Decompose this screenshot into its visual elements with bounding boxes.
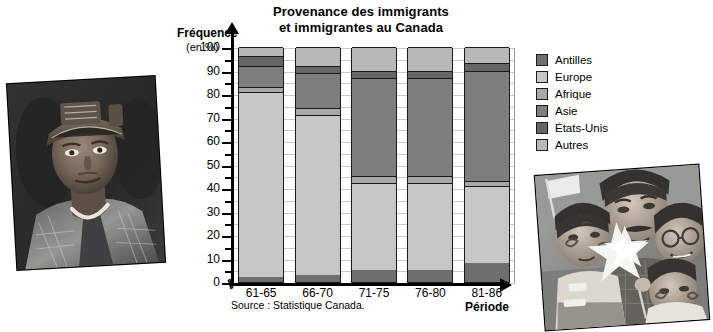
bar-segment-antilles[interactable] — [352, 270, 396, 282]
legend-label: Asie — [555, 105, 577, 117]
bar-segment-antilles[interactable] — [296, 275, 340, 282]
y-tick-label: 50 — [194, 158, 220, 172]
y-tick-minor — [225, 177, 231, 179]
bar-61-65[interactable] — [238, 48, 284, 283]
y-tick-minor — [225, 107, 231, 109]
bar-segment-asie[interactable] — [465, 71, 509, 181]
legend-label: Europe — [555, 71, 592, 83]
legend-item--tats-unis[interactable]: États-Unis — [536, 120, 656, 136]
bar-segment-afrique[interactable] — [239, 87, 283, 92]
x-tick-label-71-75: 71-75 — [346, 286, 402, 300]
bar-66-70[interactable] — [295, 48, 341, 283]
y-tick-label: 80 — [194, 87, 220, 101]
y-tick-major — [222, 166, 231, 168]
y-tick-major — [222, 236, 231, 238]
legend-label: Antilles — [555, 54, 592, 66]
legend-item-antilles[interactable]: Antilles — [536, 52, 656, 68]
chart-title: Provenance des immigrants et immigrantes… — [246, 4, 476, 36]
y-tick-minor — [225, 201, 231, 203]
y-tick-minor — [225, 224, 231, 226]
bar-segment-asie[interactable] — [352, 78, 396, 177]
y-tick-label: 90 — [194, 64, 220, 78]
legend-label: Autres — [555, 139, 588, 151]
bar-segment-autres[interactable] — [408, 47, 452, 71]
bar-segment-europe[interactable] — [408, 183, 452, 270]
bar-81-86[interactable] — [464, 48, 510, 283]
x-tick-label-76-80: 76-80 — [402, 286, 458, 300]
y-tick-minor — [225, 271, 231, 273]
bar-segment--tats-unis[interactable] — [239, 56, 283, 65]
bar-segment-autres[interactable] — [296, 47, 340, 66]
bar-segment-antilles[interactable] — [408, 270, 452, 282]
bar-71-75[interactable] — [351, 48, 397, 283]
y-tick-minor — [225, 154, 231, 156]
figure-root: Provenance des immigrants et immigrantes… — [0, 0, 713, 332]
y-tick-label: 0 — [194, 275, 220, 289]
y-tick-major — [222, 283, 231, 285]
bar-segment-asie[interactable] — [408, 78, 452, 177]
bar-segment--tats-unis[interactable] — [352, 71, 396, 78]
bar-segment--tats-unis[interactable] — [296, 66, 340, 73]
bar-segment-afrique[interactable] — [296, 108, 340, 115]
y-axis-line — [231, 32, 234, 284]
bar-segment-europe[interactable] — [239, 92, 283, 278]
bar-segment-asie[interactable] — [296, 73, 340, 108]
y-tick-minor — [225, 83, 231, 85]
chart-title-line-1: Provenance des immigrants — [246, 4, 476, 20]
photo-left-image — [7, 76, 165, 270]
legend-item-europe[interactable]: Europe — [536, 69, 656, 85]
y-tick-label: 70 — [194, 111, 220, 125]
legend-label: États-Unis — [555, 122, 608, 134]
y-tick-major — [222, 48, 231, 50]
y-tick-major — [222, 119, 231, 121]
x-tick-label-81-86: 81-86 — [459, 286, 515, 300]
photo-right — [535, 164, 709, 330]
bar-segment-antilles[interactable] — [239, 277, 283, 282]
bar-segment-europe[interactable] — [465, 186, 509, 264]
bar-76-80[interactable] — [407, 48, 453, 283]
bar-segment-afrique[interactable] — [408, 176, 452, 183]
bar-segment-europe[interactable] — [296, 115, 340, 275]
y-tick-label: 40 — [194, 181, 220, 195]
bar-segment-afrique[interactable] — [465, 181, 509, 186]
y-axis-arrow-icon — [225, 22, 239, 34]
bar-segment-autres[interactable] — [352, 47, 396, 71]
bar-segment--tats-unis[interactable] — [408, 71, 452, 78]
source-note: Source : Statistique Canada. — [231, 299, 365, 311]
y-tick-label: 20 — [194, 228, 220, 242]
legend-swatch-icon — [536, 71, 548, 83]
legend-swatch-icon — [536, 54, 548, 66]
y-tick-major — [222, 260, 231, 262]
y-tick-label: 100 — [194, 40, 220, 54]
legend-item-asie[interactable]: Asie — [536, 103, 656, 119]
legend-item-autres[interactable]: Autres — [536, 137, 656, 153]
bar-segment-autres[interactable] — [465, 47, 509, 63]
bar-segment-autres[interactable] — [239, 47, 283, 56]
legend: AntillesEuropeAfriqueAsieÉtats-UnisAutre… — [536, 52, 656, 154]
photo-right-image — [535, 164, 709, 330]
y-tick-label: 60 — [194, 134, 220, 148]
y-tick-major — [222, 142, 231, 144]
y-tick-major — [222, 95, 231, 97]
y-tick-major — [222, 189, 231, 191]
legend-item-afrique[interactable]: Afrique — [536, 86, 656, 102]
y-tick-minor — [225, 130, 231, 132]
bar-segment-europe[interactable] — [352, 183, 396, 270]
legend-swatch-icon — [536, 122, 548, 134]
x-axis-label: Période — [465, 300, 509, 314]
y-tick-major — [222, 72, 231, 74]
bar-segment-asie[interactable] — [239, 66, 283, 87]
photo-left — [7, 76, 165, 270]
bar-segment--tats-unis[interactable] — [465, 63, 509, 70]
y-tick-minor — [225, 248, 231, 250]
y-tick-minor — [225, 60, 231, 62]
y-tick-label: 10 — [194, 252, 220, 266]
bar-segment-afrique[interactable] — [352, 176, 396, 183]
x-tick-label-66-70: 66-70 — [290, 286, 346, 300]
chart-title-line-2: et immigrantes au Canada — [246, 20, 476, 36]
legend-swatch-icon — [536, 88, 548, 100]
plot-right-frame — [514, 48, 515, 283]
x-tick-label-61-65: 61-65 — [233, 286, 289, 300]
legend-swatch-icon — [536, 105, 548, 117]
legend-label: Afrique — [555, 88, 591, 100]
